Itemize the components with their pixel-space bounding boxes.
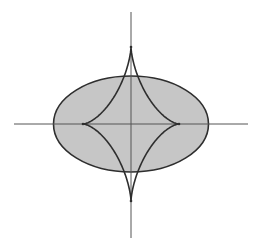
cusp-left [82, 123, 85, 126]
ellipse-evolute-diagram [0, 0, 260, 252]
cusp-top [130, 46, 133, 49]
cusp-bottom [130, 200, 133, 203]
cusp-right [178, 123, 181, 126]
